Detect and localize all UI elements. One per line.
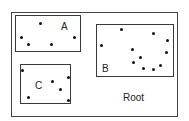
region-a-label: A [61, 22, 68, 32]
region-b-label: B [102, 64, 109, 74]
data-point [152, 32, 155, 35]
data-point [67, 76, 70, 79]
data-point [20, 36, 23, 39]
data-point [51, 80, 54, 83]
region-a [15, 15, 81, 52]
root-label: Root [123, 93, 144, 103]
data-point [131, 48, 134, 51]
data-point [142, 67, 145, 70]
data-point [132, 61, 135, 64]
data-point [59, 88, 62, 91]
data-point [27, 43, 30, 46]
data-point [159, 64, 162, 67]
data-point [50, 43, 53, 46]
data-point [100, 44, 103, 47]
data-point [139, 56, 142, 59]
data-point [39, 22, 42, 25]
data-point [27, 96, 30, 99]
data-point [166, 39, 169, 42]
data-point [21, 69, 24, 72]
data-point [73, 36, 76, 39]
data-point [152, 68, 155, 71]
data-point [67, 99, 70, 102]
data-point [165, 51, 168, 54]
data-point [120, 28, 123, 31]
region-c-label: C [35, 81, 42, 91]
